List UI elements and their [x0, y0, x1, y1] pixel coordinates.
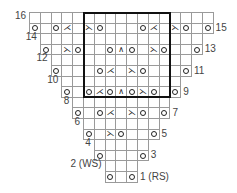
row-label: 1 (RS) [140, 172, 169, 182]
row-label: 16 [15, 11, 26, 21]
yarn-over-icon [160, 108, 170, 118]
ssk-icon: ⋋ [149, 45, 159, 55]
double-decrease-icon: ∧ [118, 46, 124, 54]
yarn-over-icon [127, 172, 137, 182]
row-label: 15 [216, 23, 227, 33]
ssk-icon: ⋋ [128, 67, 136, 75]
ssk-icon: ⋋ [106, 130, 116, 140]
yarn-over-icon [106, 87, 116, 97]
yarn-over-icon [138, 151, 148, 161]
yarn-over-icon [97, 110, 103, 116]
yarn-over-icon [138, 24, 148, 34]
row-label: 9 [183, 87, 189, 97]
yarn-over-icon [106, 45, 116, 55]
ssk-icon: ⋋ [84, 24, 94, 34]
yarn-over-icon [183, 68, 189, 74]
yarn-over-icon [97, 25, 103, 31]
yarn-over-icon [106, 172, 116, 182]
ssk-icon: ⋋ [170, 24, 180, 34]
yarn-over-icon [140, 153, 146, 159]
yarn-over-icon [127, 45, 137, 55]
yarn-over-icon [161, 47, 167, 53]
yarn-over-icon [149, 87, 159, 97]
yarn-over-icon [53, 25, 59, 31]
ssk-icon: ⋋ [127, 108, 137, 118]
ssk-icon: ⋋ [138, 87, 148, 97]
chart-cell [148, 129, 160, 141]
yarn-over-icon [129, 174, 135, 180]
chart-cell [180, 65, 192, 77]
row-label: 14 [26, 32, 37, 42]
double-decrease-icon: ∧ [118, 88, 124, 96]
yarn-over-icon [181, 66, 191, 76]
yarn-over-icon [172, 89, 178, 95]
yarn-over-icon [194, 47, 200, 53]
yarn-over-icon [149, 130, 159, 140]
k2tog-icon: ⋌ [106, 109, 114, 117]
yarn-over-icon [205, 25, 211, 31]
row-label: 3 [151, 150, 157, 160]
yarn-over-icon [118, 131, 124, 137]
knitting-chart: 16⋌⋋⋌⋋1514⋋∧⋋1312⋌⋋1110⋌∧⋋98⋌⋋76⋋5432 (W… [0, 0, 237, 193]
yarn-over-icon [107, 89, 113, 95]
k2tog-icon: ⋌ [106, 108, 116, 118]
chart-cell [159, 107, 171, 119]
yarn-over-icon [53, 68, 59, 74]
yarn-over-icon [86, 89, 92, 95]
row-label: 8 [64, 96, 70, 106]
yarn-over-icon [95, 24, 105, 34]
chart-cell [126, 171, 138, 183]
yarn-over-icon [203, 24, 213, 34]
k2tog-icon: ⋌ [106, 66, 116, 76]
yarn-over-icon [129, 89, 135, 95]
ssk-icon: ⋋ [139, 88, 147, 96]
double-decrease-icon: ∧ [116, 45, 126, 55]
yarn-over-icon [73, 45, 83, 55]
yarn-over-icon [116, 130, 126, 140]
ssk-icon: ⋋ [62, 45, 72, 55]
yarn-over-icon [95, 66, 105, 76]
row-label: 13 [205, 44, 216, 54]
yarn-over-icon [151, 89, 157, 95]
chart-cell [169, 86, 181, 98]
row-label: 11 [194, 66, 204, 76]
row-label: 12 [36, 53, 47, 63]
yarn-over-icon [127, 87, 137, 97]
row-label: 6 [74, 117, 80, 127]
yarn-over-icon [181, 24, 191, 34]
ssk-icon: ⋋ [127, 66, 137, 76]
chart-cell [191, 44, 203, 56]
yarn-over-icon [161, 110, 167, 116]
yarn-over-icon [160, 45, 170, 55]
yarn-over-icon [84, 87, 94, 97]
ssk-icon: ⋋ [171, 24, 179, 32]
yarn-over-icon [129, 47, 135, 53]
k2tog-icon: ⋌ [149, 24, 159, 34]
yarn-over-icon [97, 68, 103, 74]
yarn-over-icon [140, 25, 146, 31]
k2tog-icon: ⋌ [95, 87, 105, 97]
double-decrease-icon: ∧ [116, 87, 126, 97]
ssk-icon: ⋋ [150, 46, 158, 54]
row-label: 2 (WS) [71, 159, 102, 169]
yarn-over-icon [52, 24, 62, 34]
row-label: 4 [85, 138, 91, 148]
ssk-icon: ⋋ [106, 130, 114, 138]
yarn-over-icon [192, 45, 202, 55]
chart-cell [137, 150, 149, 162]
yarn-over-icon [138, 66, 148, 76]
row-label: 10 [47, 75, 58, 85]
yarn-over-icon [95, 108, 105, 118]
yarn-over-icon [138, 108, 148, 118]
yarn-over-icon [170, 87, 180, 97]
row-label: 7 [172, 108, 178, 118]
row-label: 5 [162, 129, 168, 139]
ssk-icon: ⋋ [128, 109, 136, 117]
chart-cell [202, 23, 214, 35]
k2tog-icon: ⋌ [150, 24, 158, 32]
k2tog-icon: ⋌ [106, 67, 114, 75]
yarn-over-icon [75, 47, 81, 53]
k2tog-icon: ⋌ [62, 24, 72, 34]
k2tog-icon: ⋌ [96, 88, 104, 96]
ssk-icon: ⋋ [85, 24, 93, 32]
